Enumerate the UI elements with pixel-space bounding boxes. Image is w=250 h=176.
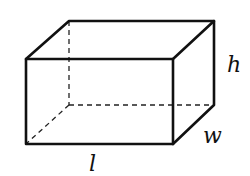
height-label: h — [227, 52, 241, 77]
top-face — [26, 21, 214, 59]
box-diagram: h w l — [0, 0, 250, 176]
width-label: w — [203, 123, 222, 148]
front-face — [26, 59, 173, 144]
hidden-depth-edge — [27, 105, 69, 143]
length-label: l — [89, 151, 96, 176]
